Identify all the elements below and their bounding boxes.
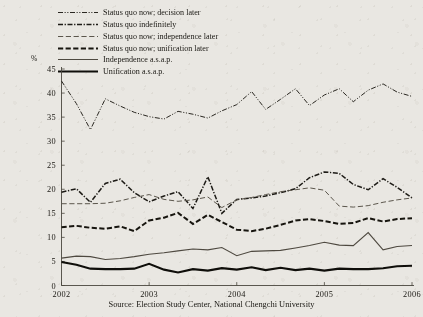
series-line-1 <box>62 172 413 213</box>
legend-entry-4: Independence a.s.a.p. <box>58 55 172 64</box>
source-note: Source: Election Study Center, National … <box>109 300 316 309</box>
y-tick-label: 20 <box>47 185 56 194</box>
y-tick-label: 25 <box>47 161 56 170</box>
series-line-2 <box>62 188 413 208</box>
y-axis-unit-label: % <box>31 54 38 63</box>
legend-label-2: Status quo now; independence later <box>103 32 218 41</box>
x-axis-ticks: 20022003200420052006 <box>53 282 422 299</box>
legend-entry-5: Unification a.s.a.p. <box>58 67 164 76</box>
x-tick-label: 2005 <box>315 290 333 299</box>
legend-label-3: Status quo now; unification later <box>103 44 209 53</box>
y-tick-label: 10 <box>47 233 56 242</box>
chart-series-layer <box>62 81 413 272</box>
y-tick-label: 35 <box>47 113 56 122</box>
y-tick-label: 5 <box>52 257 57 266</box>
legend-label-0: Status quo now; decision later <box>103 8 201 17</box>
x-tick-label: 2006 <box>403 290 421 299</box>
series-line-5 <box>62 262 413 273</box>
legend-label-5: Unification a.s.a.p. <box>103 67 164 76</box>
y-tick-label: 40 <box>47 89 56 98</box>
y-tick-label: 15 <box>47 209 56 218</box>
series-line-3 <box>62 213 413 231</box>
x-tick-label: 2002 <box>53 290 71 299</box>
series-line-0 <box>62 81 413 130</box>
legend-entry-3: Status quo now; unification later <box>58 44 209 53</box>
legend-label-1: Status quo indefinitely <box>103 20 177 29</box>
legend-entry-1: Status quo indefinitely <box>58 20 177 29</box>
legend-entry-2: Status quo now; independence later <box>58 32 218 41</box>
x-tick-label: 2004 <box>228 290 246 299</box>
legend-label-4: Independence a.s.a.p. <box>103 55 172 64</box>
y-tick-label: 30 <box>47 137 56 146</box>
line-chart-figure: Status quo now; decision later Status qu… <box>0 0 423 317</box>
legend-entry-0: Status quo now; decision later <box>58 8 201 17</box>
chart-legend: Status quo now; decision later Status qu… <box>58 8 218 76</box>
y-axis-ticks: 051015202530354045 <box>47 65 65 291</box>
series-line-4 <box>62 233 413 260</box>
y-tick-label: 45 <box>47 65 56 74</box>
x-tick-label: 2003 <box>140 290 158 299</box>
